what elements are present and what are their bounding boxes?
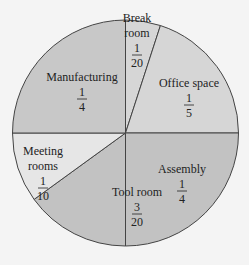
svg-text:Manufacturing: Manufacturing bbox=[46, 70, 117, 84]
svg-text:1: 1 bbox=[79, 85, 85, 99]
svg-text:1: 1 bbox=[186, 91, 192, 105]
svg-text:20: 20 bbox=[131, 215, 143, 229]
svg-text:5: 5 bbox=[186, 106, 192, 120]
svg-text:Tool room: Tool room bbox=[112, 185, 163, 199]
svg-text:Office space: Office space bbox=[159, 76, 219, 90]
svg-text:3: 3 bbox=[134, 200, 140, 214]
svg-text:4: 4 bbox=[179, 192, 185, 206]
svg-text:1: 1 bbox=[179, 177, 185, 191]
svg-text:Break: Break bbox=[123, 11, 152, 25]
svg-text:10: 10 bbox=[37, 189, 49, 203]
svg-text:20: 20 bbox=[131, 56, 143, 70]
svg-text:Assembly: Assembly bbox=[158, 162, 206, 176]
pie-chart: Breakroom120Office space15Assembly14Tool… bbox=[0, 0, 249, 265]
svg-text:1: 1 bbox=[40, 174, 46, 188]
svg-text:rooms: rooms bbox=[28, 159, 58, 173]
svg-text:room: room bbox=[124, 26, 150, 40]
svg-text:1: 1 bbox=[134, 41, 140, 55]
svg-text:4: 4 bbox=[79, 100, 85, 114]
svg-text:Meeting: Meeting bbox=[23, 144, 63, 158]
